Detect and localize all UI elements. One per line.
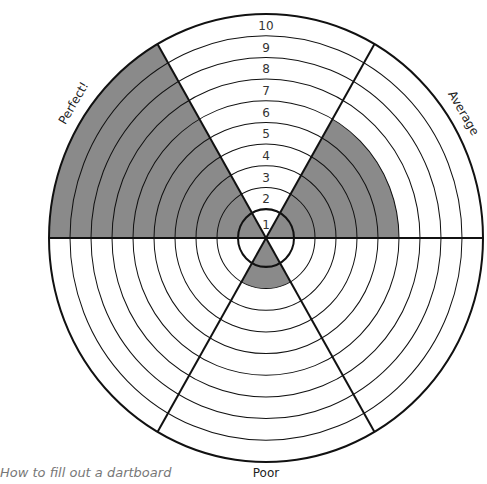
ring-label-6: 6 [262,106,270,120]
sector-fill-upper-right [266,119,399,238]
ring-label-10: 10 [258,19,273,33]
caption: How to fill out a dartboard [0,465,171,480]
ring-label-2: 2 [262,192,270,206]
dartboard: 12345678910 Perfect! Average Poor [0,0,487,484]
sector-fill-bottom [242,238,291,289]
ring-label-5: 5 [262,127,270,141]
ring-label-8: 8 [262,62,270,76]
ring-label-1: 1 [262,218,270,232]
sector-fills [49,44,399,289]
ring-label-4: 4 [262,149,270,163]
ring-label-3: 3 [262,171,270,185]
ring-label-7: 7 [262,84,270,98]
sector-label-average: Average [445,88,482,138]
ring-number-labels: 12345678910 [258,19,273,232]
sector-label-poor: Poor [253,466,279,480]
ring-label-9: 9 [262,41,270,55]
